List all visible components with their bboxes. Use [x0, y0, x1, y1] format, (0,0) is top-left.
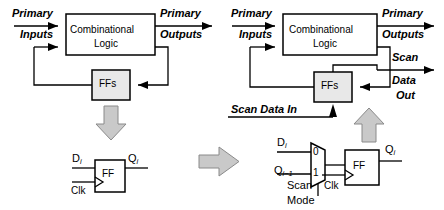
right-primary-inputs-label-line1: Primary [231, 8, 272, 19]
right-primary-outputs-label-line1: Primary [382, 8, 423, 19]
scan-ff-scanin-label: Qi−1 [274, 165, 293, 177]
left-expand-block-arrow [96, 106, 126, 140]
scan-ff-clk-label: Clk [324, 181, 338, 191]
scan-ff-scanin-letter: Q [274, 164, 283, 176]
scan-ff-d-subscript: i [285, 141, 287, 150]
left-ff-q-label: Qi [128, 153, 138, 165]
left-ff-q-letter: Q [128, 152, 137, 164]
scan-ff-d-label: Di [277, 137, 287, 149]
left-ff-body-label: FF [102, 169, 114, 179]
mux-port-0-label: 0 [313, 147, 319, 157]
scan-mode-label-line1: Scan [287, 180, 312, 191]
scan-ff-q-letter: Q [385, 143, 394, 155]
right-scan-out-label-line2: Data [392, 75, 416, 86]
left-primary-outputs-label-line1: Primary [160, 8, 201, 19]
right-combinational-logic-label-line2: Logic [313, 39, 337, 49]
left-ff-d-label: Di [72, 153, 82, 165]
diagram-vector-layer [0, 0, 444, 210]
right-scan-data-in-arrowhead [329, 104, 337, 117]
left-ffs-label: FFs [99, 79, 116, 89]
scan-ff-scanin-subscript: i−1 [283, 169, 293, 178]
scan-ff-body-label: FF [353, 161, 365, 171]
scan-mode-label-line2: Mode [287, 195, 315, 206]
mux-port-1-label: 1 [313, 168, 319, 178]
left-ff-clk-label: Clk [71, 186, 85, 196]
left-combinational-logic-label-line1: Combinational [70, 25, 134, 35]
scan-ff-d-letter: D [277, 136, 285, 148]
left-primary-inputs-label-line1: Primary [12, 8, 53, 19]
right-scan-out-label-line3: Out [396, 90, 415, 101]
right-combinational-logic-label-line1: Combinational [289, 25, 353, 35]
left-combinational-logic-label-line2: Logic [94, 39, 118, 49]
center-transform-block-arrow [199, 147, 239, 176]
right-primary-inputs-label-line2: Inputs [239, 29, 272, 40]
right-scan-data-out-path [333, 65, 377, 72]
right-ffs-label: FFs [321, 81, 338, 91]
scan-design-figure: Primary Inputs Combinational Logic Prima… [0, 0, 444, 210]
right-expand-block-arrow [354, 108, 384, 142]
right-primary-outputs-label-line2: Outputs [382, 29, 424, 40]
left-ff-d-letter: D [72, 152, 80, 164]
scan-ff-q-subscript: i [394, 148, 396, 157]
scan-data-in-label: Scan Data In [231, 104, 297, 115]
left-primary-outputs-label-line2: Outputs [160, 29, 202, 40]
left-ff-d-subscript: i [80, 157, 82, 166]
scan-ff-q-label: Qi [385, 144, 395, 156]
left-ff-q-subscript: i [137, 157, 139, 166]
left-primary-inputs-label-line2: Inputs [20, 29, 53, 40]
right-scan-out-label-line1: Scan [392, 52, 418, 63]
